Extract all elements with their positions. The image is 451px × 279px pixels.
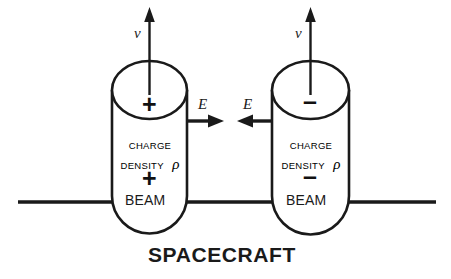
right-velocity-label: v [295, 26, 302, 41]
spacecraft-caption: SPACECRAFT [148, 244, 296, 265]
right-beam-label: BEAM [286, 193, 326, 207]
left-field-arrow [187, 115, 224, 128]
right-velocity-arrow-head [305, 7, 316, 22]
left-charge-label-line1: CHARGE [105, 140, 195, 151]
left-body-charge-sign: + [142, 166, 157, 191]
left-field-label: E [198, 97, 207, 112]
right-field-arrow [237, 115, 272, 128]
left-top-charge-sign: + [142, 92, 157, 117]
left-charge-density-symbol: ρ [172, 156, 179, 172]
spacecraft-beam-diagram [0, 0, 451, 279]
right-field-arrow-head [237, 115, 253, 128]
right-charge-density-symbol: ρ [333, 156, 340, 172]
right-field-label: E [243, 97, 252, 112]
left-field-arrow-head [208, 115, 224, 128]
right-body-charge-sign: – [303, 164, 317, 189]
diagram-canvas: v v E E + – CHARGE DENSITY ρ + BEAM CHAR… [0, 0, 451, 279]
left-beam-label: BEAM [125, 193, 165, 207]
right-top-charge-sign: – [303, 89, 317, 114]
left-velocity-arrow-head [144, 7, 155, 22]
left-velocity-label: v [134, 26, 141, 41]
right-charge-label-line1: CHARGE [266, 140, 356, 151]
